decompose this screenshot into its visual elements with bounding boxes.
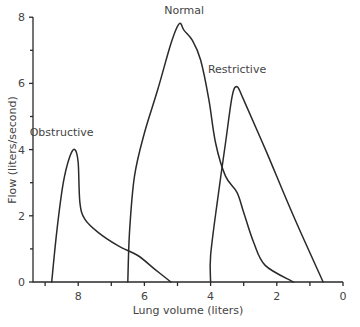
curve-restrictive bbox=[210, 87, 323, 282]
curve-obstructive bbox=[52, 149, 171, 282]
y-tick-label: 0 bbox=[18, 276, 25, 289]
y-tick-label: 2 bbox=[18, 210, 25, 223]
axis-lines bbox=[33, 17, 343, 282]
x-axis-title: Lung volume (liters) bbox=[133, 304, 244, 317]
x-tick-label: 2 bbox=[273, 290, 280, 303]
y-tick-label: 8 bbox=[18, 11, 25, 24]
x-tick-label: 6 bbox=[141, 290, 148, 303]
y-tick-label: 4 bbox=[18, 144, 25, 157]
x-tick-label: 4 bbox=[207, 290, 214, 303]
y-axis-title: Flow (liters/second) bbox=[6, 96, 19, 204]
label-obstructive: Obstructive bbox=[30, 126, 94, 139]
series-curves bbox=[52, 23, 323, 282]
axes bbox=[33, 17, 343, 282]
x-tick-label: 8 bbox=[75, 290, 82, 303]
label-normal: Normal bbox=[164, 4, 204, 17]
label-restrictive: Restrictive bbox=[208, 63, 266, 76]
y-tick-label: 6 bbox=[18, 77, 25, 90]
curve-normal bbox=[128, 23, 294, 282]
axis-ticks: 0246886420 bbox=[18, 11, 347, 303]
x-tick-label: 0 bbox=[340, 290, 347, 303]
flow-volume-chart: 0246886420 ObstructiveNormalRestrictive … bbox=[0, 0, 360, 327]
